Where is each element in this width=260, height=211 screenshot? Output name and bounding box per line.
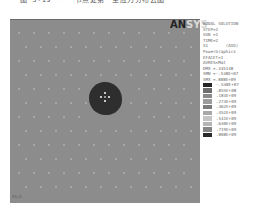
mesh-node-dot — [93, 60, 95, 62]
legend-swatch — [203, 88, 212, 93]
legend-swatch — [203, 122, 212, 127]
mesh-node-dot — [145, 186, 147, 188]
mesh-node-dot — [18, 172, 20, 174]
viewport-tag: S1=2 — [12, 194, 22, 199]
mesh-node-dot — [55, 74, 57, 76]
mesh-node-dot — [168, 32, 170, 34]
mesh-node-dot — [183, 88, 185, 90]
mesh-node-dot — [160, 186, 162, 188]
mesh-node-dot — [138, 32, 140, 34]
mesh-node-dot — [190, 46, 192, 48]
mesh-node-dot — [48, 88, 50, 90]
mesh-node-dot — [55, 102, 57, 104]
mesh-node-dot — [130, 46, 132, 48]
mesh-node-dot — [123, 144, 125, 146]
mesh-node-dot — [160, 102, 162, 104]
legend-swatch — [203, 116, 212, 121]
mesh-node-dot — [70, 158, 72, 160]
mesh-node-dot — [190, 130, 192, 132]
mesh-node-dot — [175, 102, 177, 104]
mesh-node-dot — [145, 102, 147, 104]
mesh-node-dot — [100, 46, 102, 48]
mesh-node-dot — [145, 74, 147, 76]
mesh-node-dot — [115, 158, 117, 160]
legend-swatch — [203, 111, 212, 116]
mesh-node-dot — [160, 130, 162, 132]
mesh-node-dot — [25, 158, 27, 160]
mesh-node-dot — [55, 158, 57, 160]
logo-bold: AN — [170, 19, 186, 30]
mesh-node-dot — [85, 46, 87, 48]
node-marker-icon — [100, 92, 111, 103]
mesh-node-dot — [55, 46, 57, 48]
mesh-node-dot — [160, 46, 162, 48]
mesh-node-dot — [25, 130, 27, 132]
mesh-node-dot — [130, 130, 132, 132]
mesh-node-dot — [55, 130, 57, 132]
mesh-node-dot — [145, 158, 147, 160]
mesh-node-dot — [190, 102, 192, 104]
mesh-node-dot — [123, 32, 125, 34]
mesh-node-dot — [78, 172, 80, 174]
stress-concentration-region — [89, 82, 122, 115]
legend-swatch — [203, 105, 212, 110]
mesh-node-dot — [18, 32, 20, 34]
figure-caption: 图 3-19 ··· 节点处第一主应力分布云图 — [20, 0, 240, 4]
mesh-node-dot — [78, 88, 80, 90]
mesh-node-dot — [25, 74, 27, 76]
mesh-node-dot — [33, 88, 35, 90]
mesh-node-dot — [138, 116, 140, 118]
mesh-node-dot — [145, 130, 147, 132]
mesh-node-dot — [78, 32, 80, 34]
mesh-node-dot — [130, 158, 132, 160]
mesh-node-dot — [138, 60, 140, 62]
mesh-node-dot — [123, 172, 125, 174]
mesh-node-dot — [18, 88, 20, 90]
mesh-node-dot — [48, 32, 50, 34]
mesh-node-dot — [25, 186, 27, 188]
mesh-node-dot — [40, 130, 42, 132]
mesh-node-dot — [55, 186, 57, 188]
graphics-viewport[interactable]: S1=2 — [10, 19, 200, 203]
mesh-node-dot — [25, 102, 27, 104]
mesh-node-dot — [93, 172, 95, 174]
mesh-node-dot — [78, 144, 80, 146]
mesh-node-dot — [25, 46, 27, 48]
mesh-node-dot — [33, 172, 35, 174]
mesh-node-dot — [153, 172, 155, 174]
mesh-node-dot — [115, 186, 117, 188]
mesh-node-dot — [33, 144, 35, 146]
mesh-node-dot — [18, 144, 20, 146]
mesh-node-dot — [63, 88, 65, 90]
mesh-node-dot — [40, 158, 42, 160]
mesh-node-dot — [183, 144, 185, 146]
mesh-node-dot — [63, 60, 65, 62]
mesh-node-dot — [48, 144, 50, 146]
mesh-node-dot — [153, 144, 155, 146]
mesh-node-dot — [78, 116, 80, 118]
legend-value: .808E+09 — [216, 132, 236, 138]
legend-swatch — [203, 83, 212, 88]
mesh-node-dot — [48, 116, 50, 118]
mesh-node-dot — [160, 158, 162, 160]
contour-legend: -.538E+07.855E+08.184E+09.273E+09.362E+0… — [203, 82, 260, 138]
mesh-node-dot — [190, 74, 192, 76]
mesh-node-dot — [183, 172, 185, 174]
legend-swatch — [203, 99, 212, 104]
mesh-node-dot — [48, 60, 50, 62]
mesh-node-dot — [153, 32, 155, 34]
mesh-node-dot — [168, 60, 170, 62]
mesh-node-dot — [115, 46, 117, 48]
mesh-node-dot — [85, 130, 87, 132]
mesh-node-dot — [63, 144, 65, 146]
mesh-node-dot — [175, 46, 177, 48]
solution-info: NODAL SOLUTIONSTEP=2SUB =1TIME=2S1 (AVG)… — [203, 21, 260, 83]
mesh-node-dot — [160, 74, 162, 76]
legend-row: .808E+09 — [203, 132, 260, 138]
mesh-node-dot — [175, 130, 177, 132]
mesh-node-dot — [85, 186, 87, 188]
mesh-node-dot — [100, 74, 102, 76]
mesh-node-dot — [108, 60, 110, 62]
mesh-node-dot — [78, 60, 80, 62]
mesh-node-dot — [48, 172, 50, 174]
